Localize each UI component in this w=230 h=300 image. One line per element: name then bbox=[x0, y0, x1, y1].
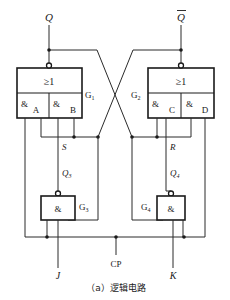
gate-g3: & G3 bbox=[41, 191, 89, 220]
g4-cp-junction-dot bbox=[182, 235, 186, 239]
g1-b-junction-dot bbox=[72, 135, 76, 139]
g3-and-symbol: & bbox=[54, 204, 61, 214]
g4-label: G4 bbox=[141, 202, 151, 213]
q-output-label: Q bbox=[45, 11, 53, 23]
k-label: K bbox=[169, 270, 178, 281]
cp-junction-dot bbox=[114, 235, 118, 239]
g2-r-bus bbox=[132, 118, 191, 137]
g1-or-symbol: ≥1 bbox=[44, 76, 55, 87]
g1-input-a-label: A bbox=[33, 105, 40, 115]
g1-and-left-symbol: & bbox=[21, 99, 28, 109]
q-bar-output-label: Q bbox=[177, 11, 185, 23]
g2-label: G2 bbox=[131, 90, 141, 101]
g2-inverter-bubble bbox=[179, 63, 184, 68]
g1-a-s-bus bbox=[41, 118, 98, 137]
g3-cp-junction-dot bbox=[45, 235, 49, 239]
g3-label: G3 bbox=[79, 202, 89, 213]
cp-label: CP bbox=[110, 259, 121, 269]
j-label: J bbox=[56, 270, 61, 281]
g1-inverter-bubble bbox=[47, 63, 52, 68]
s-label: S bbox=[62, 142, 67, 152]
q-bar-junction-dot bbox=[179, 48, 183, 52]
r-label: R bbox=[169, 142, 176, 152]
logic-circuit-diagram: Q Q ≥1 & A & B G1 ≥1 & C & D G2 S bbox=[0, 0, 230, 300]
gate-g4: & G4 bbox=[141, 191, 185, 220]
g2-and-right-symbol: & bbox=[186, 99, 193, 109]
g4-and-symbol: & bbox=[167, 204, 174, 214]
g1-label: G1 bbox=[85, 90, 95, 101]
g1-and-right-symbol: & bbox=[53, 99, 60, 109]
g2-and-left-symbol: & bbox=[152, 99, 159, 109]
g2-c-junction-dot bbox=[155, 135, 159, 139]
q4-label: Q4 bbox=[170, 168, 180, 179]
q3-label: Q3 bbox=[62, 168, 72, 179]
figure-caption: （a）逻辑电路 bbox=[86, 282, 146, 293]
g2-or-symbol: ≥1 bbox=[176, 76, 187, 87]
g2-input-d-label: D bbox=[202, 105, 209, 115]
g1-input-b-label: B bbox=[70, 105, 76, 115]
g2-input-c-label: C bbox=[169, 105, 175, 115]
gate-g2: ≥1 & C & D G2 bbox=[131, 63, 214, 118]
q-junction-dot bbox=[47, 48, 51, 52]
gate-g1: ≥1 & A & B G1 bbox=[17, 63, 95, 118]
